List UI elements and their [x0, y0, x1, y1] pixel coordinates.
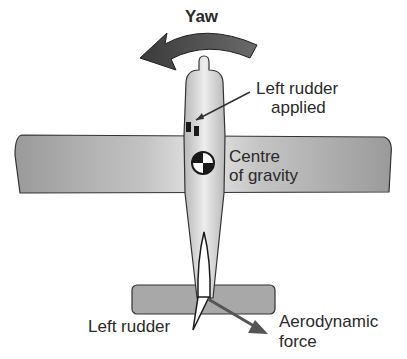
- yaw-label: Yaw: [185, 8, 218, 26]
- aerodynamic-force-label-line1: Aerodynamic: [279, 313, 378, 331]
- yaw-diagram: [0, 0, 407, 359]
- left-rudder-label: Left rudder: [88, 318, 170, 336]
- centre-of-gravity-icon: [192, 152, 214, 174]
- centre-of-gravity-label-line2: of gravity: [229, 167, 298, 185]
- left-rudder-applied-label-line1: Left rudder: [256, 80, 338, 98]
- left-rudder-applied-label-line2: applied: [271, 99, 326, 117]
- aerodynamic-force-label-line2: force: [279, 333, 317, 351]
- centre-of-gravity-label-line1: Centre: [229, 148, 280, 166]
